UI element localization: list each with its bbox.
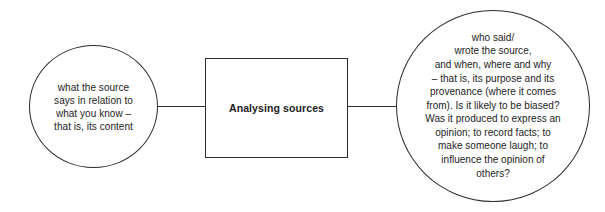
node-source-content[interactable]: what the source says in relation to what… [29, 45, 158, 168]
node-analysing-sources-label: Analysing sources [229, 102, 324, 115]
concept-map-diagram: what the source says in relation to what… [0, 0, 605, 212]
connector-center-to-right [347, 106, 397, 107]
connector-left-to-center [157, 106, 206, 107]
node-analysing-sources[interactable]: Analysing sources [205, 58, 348, 158]
node-source-provenance[interactable]: who said/ wrote the source, and when, wh… [396, 10, 590, 202]
node-source-provenance-label: who said/ wrote the source, and when, wh… [400, 31, 586, 181]
node-source-content-label: what the source says in relation to what… [38, 81, 150, 133]
